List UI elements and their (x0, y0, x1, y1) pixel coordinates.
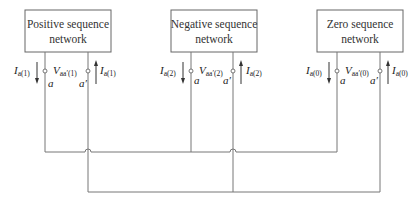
negative-current-out-label: Ia(2) (245, 64, 262, 78)
zero-terminal-a-prime-label: a′ (370, 74, 379, 86)
zero-voltage-label: Vaa′(0) (345, 64, 369, 78)
negative-network-group: Negative sequence network Ia(2) Vaa′(2) … (159, 10, 262, 192)
zero-terminal-a-prime (378, 69, 382, 73)
positive-voltage-label: Vaa′(1) (53, 64, 77, 78)
negative-network-label-line1: Negative sequence (171, 18, 258, 31)
zero-terminal-a (335, 69, 339, 73)
zero-network-group: Zero sequence network Ia(0) Vaa′(0) Ia(0… (305, 10, 408, 192)
negative-terminal-a (189, 69, 193, 73)
zero-network-label-line1: Zero sequence (327, 18, 394, 31)
arrow-up-icon (94, 60, 98, 66)
zero-network-box (317, 10, 403, 52)
zero-network-label-line2: network (341, 33, 379, 45)
arrow-down-icon (327, 78, 331, 84)
zero-current-out-label: Ia(0) (391, 64, 408, 78)
arrow-up-icon (239, 60, 243, 66)
positive-terminal-a-label: a (48, 77, 54, 89)
negative-terminal-a-prime-label: a′ (223, 74, 232, 86)
sequence-network-diagram: Positive sequence network Ia(1) Vaa′(1) … (0, 0, 417, 203)
negative-network-box (171, 10, 257, 52)
positive-network-group: Positive sequence network Ia(1) Vaa′(1) … (13, 10, 116, 192)
negative-current-in-label: Ia(2) (159, 64, 176, 78)
arrow-down-icon (35, 78, 39, 84)
negative-voltage-label: Vaa′(2) (199, 64, 223, 78)
zero-terminal-a-label: a (340, 74, 346, 86)
positive-network-box (25, 10, 111, 52)
positive-terminal-a-prime (86, 69, 90, 73)
positive-current-in-label: Ia(1) (13, 64, 30, 78)
positive-terminal-a (43, 69, 47, 73)
zero-current-in-label: Ia(0) (305, 64, 322, 78)
arrow-up-icon (386, 60, 390, 66)
positive-current-out-label: Ia(1) (99, 64, 116, 78)
positive-terminal-a-prime-label: a′ (79, 77, 88, 89)
negative-terminal-a-prime (231, 69, 235, 73)
arrow-down-icon (181, 78, 185, 84)
negative-terminal-a-label: a (194, 74, 200, 86)
negative-network-label-line2: network (195, 33, 233, 45)
positive-network-label-line1: Positive sequence (27, 18, 109, 31)
positive-network-label-line2: network (49, 33, 87, 45)
